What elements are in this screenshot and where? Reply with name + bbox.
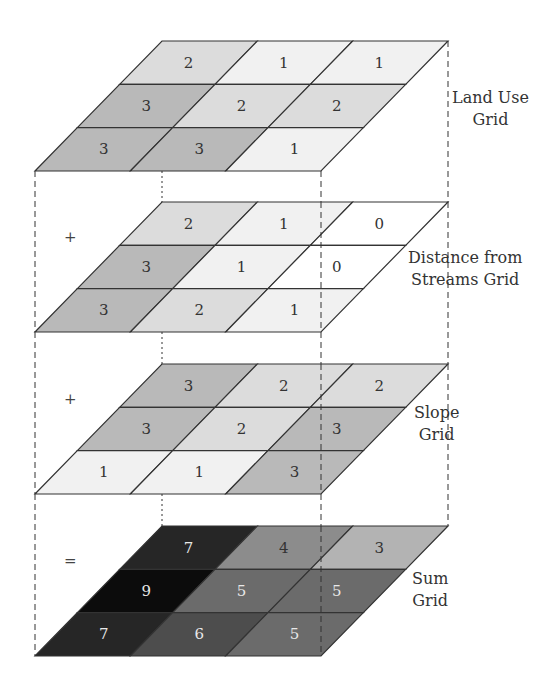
cell-value: 1 bbox=[290, 140, 300, 158]
cell-value: 3 bbox=[141, 258, 151, 276]
plus-operator: + bbox=[64, 390, 77, 408]
cell-value: 3 bbox=[99, 140, 109, 158]
cell-value: 2 bbox=[279, 377, 289, 395]
distance-from-streams-grid: 210310321 bbox=[35, 202, 448, 332]
label-line-1: Distance from bbox=[408, 247, 522, 269]
cell-value: 0 bbox=[332, 258, 342, 276]
cell-value: 3 bbox=[332, 420, 342, 438]
cell-value: 1 bbox=[290, 301, 300, 319]
label-line-2: Grid bbox=[452, 109, 529, 131]
cell-value: 1 bbox=[237, 258, 247, 276]
cell-value: 5 bbox=[332, 582, 342, 600]
sum-grid: 743955765 bbox=[35, 526, 448, 656]
cell-value: 3 bbox=[141, 97, 151, 115]
cell-value: 1 bbox=[374, 54, 384, 72]
label-line-1: Land Use bbox=[452, 87, 529, 109]
cell-value: 3 bbox=[194, 140, 204, 158]
label-line-1: Sum bbox=[412, 568, 448, 590]
cell-value: 7 bbox=[99, 625, 109, 643]
cell-value: 9 bbox=[141, 582, 151, 600]
cell-value: 1 bbox=[99, 463, 109, 481]
cell-value: 7 bbox=[184, 539, 194, 557]
cell-value: 5 bbox=[237, 582, 247, 600]
label-line-2: Grid bbox=[412, 590, 448, 612]
cell-value: 2 bbox=[184, 54, 194, 72]
cell-value: 2 bbox=[332, 97, 342, 115]
slope-grid: 322323113 bbox=[35, 364, 448, 494]
cell-value: 3 bbox=[99, 301, 109, 319]
cell-value: 3 bbox=[184, 377, 194, 395]
equals-operator: = bbox=[64, 552, 77, 570]
land-use-grid-label: Land UseGrid bbox=[452, 87, 529, 131]
cell-value: 3 bbox=[141, 420, 151, 438]
label-line-2: Grid bbox=[414, 424, 459, 446]
grid-layers: 211322331210310321322323113743955765 bbox=[35, 41, 448, 656]
cell-value: 1 bbox=[279, 54, 289, 72]
label-line-1: Slope bbox=[414, 402, 459, 424]
cell-value: 2 bbox=[194, 301, 204, 319]
label-line-2: Streams Grid bbox=[408, 269, 522, 291]
cell-value: 6 bbox=[194, 625, 204, 643]
cell-value: 3 bbox=[374, 539, 384, 557]
cell-value: 2 bbox=[374, 377, 384, 395]
plus-operator: + bbox=[64, 228, 77, 246]
distance-from-streams-grid-label: Distance fromStreams Grid bbox=[408, 247, 522, 291]
cell-value: 4 bbox=[279, 539, 289, 557]
cell-value: 3 bbox=[290, 463, 300, 481]
land-use-grid: 211322331 bbox=[35, 41, 448, 171]
cell-value: 1 bbox=[279, 215, 289, 233]
cell-value: 2 bbox=[237, 420, 247, 438]
cell-value: 2 bbox=[184, 215, 194, 233]
cell-value: 1 bbox=[194, 463, 204, 481]
slope-grid-label: SlopeGrid bbox=[414, 402, 459, 446]
sum-grid-label: SumGrid bbox=[412, 568, 448, 612]
cell-value: 2 bbox=[237, 97, 247, 115]
cell-value: 5 bbox=[290, 625, 300, 643]
cell-value: 0 bbox=[374, 215, 384, 233]
